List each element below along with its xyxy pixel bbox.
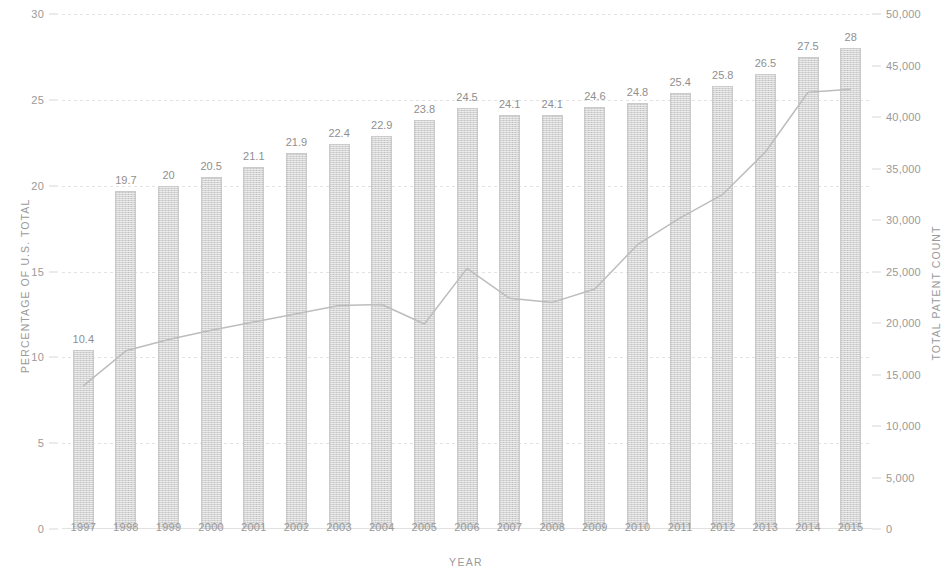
right-axis-tick-mark [872, 65, 881, 66]
bar-value-label: 24.5 [444, 91, 490, 103]
right-axis-tick: 30,000 [886, 214, 921, 226]
x-axis-tick-label: 2002 [273, 521, 319, 533]
x-axis-tick-label: 2012 [700, 521, 746, 533]
x-axis-tick-label: 2004 [359, 521, 405, 533]
right-axis: 05,00010,00015,00020,00025,00030,00035,0… [872, 0, 928, 574]
bar-value-label: 26.5 [742, 57, 788, 69]
x-axis-tick-label: 2000 [188, 521, 234, 533]
x-axis-tick-label: 2013 [742, 521, 788, 533]
bar-value-label: 24.1 [487, 98, 533, 110]
bar-value-label: 28 [828, 31, 874, 43]
right-axis-tick-mark [872, 323, 881, 324]
bar-value-label: 24.1 [529, 98, 575, 110]
x-axis-tick-label: 2008 [529, 521, 575, 533]
right-axis-tick: 50,000 [886, 8, 921, 20]
bar-value-label: 24.6 [572, 90, 618, 102]
x-axis-tick-label: 2003 [316, 521, 362, 533]
right-axis-tick-mark [872, 168, 881, 169]
right-axis-tick-mark [872, 477, 881, 478]
bar-value-label: 20 [146, 169, 192, 181]
right-axis-tick: 25,000 [886, 266, 921, 278]
left-axis-tick: 30 [31, 8, 44, 20]
x-axis-tick-label: 2015 [828, 521, 874, 533]
x-axis-tick-label: 1997 [60, 521, 106, 533]
right-axis-tick: 40,000 [886, 111, 921, 123]
right-axis-title: TOTAL PATENT COUNT [930, 213, 942, 373]
left-axis-tick-mark [49, 14, 58, 15]
x-axis-tick-label: 2001 [231, 521, 277, 533]
bar-value-label: 24.8 [615, 86, 661, 98]
right-axis-tick-mark [872, 220, 881, 221]
right-axis-tick-mark [872, 14, 881, 15]
left-axis-tick-mark [49, 99, 58, 100]
right-axis-tick-mark [872, 426, 881, 427]
patent-count-line [83, 89, 850, 386]
bar-value-label: 25.4 [657, 76, 703, 88]
x-axis-tick-label: 2009 [572, 521, 618, 533]
x-axis-title: YEAR [0, 556, 932, 568]
x-axis-tick-label: 2014 [785, 521, 831, 533]
left-axis-title: PERCENTAGE OF U.S. TOTAL [19, 213, 31, 373]
left-axis-tick-mark [49, 529, 58, 530]
x-axis-tick-label: 2005 [401, 521, 447, 533]
left-axis-tick: 15 [31, 266, 44, 278]
bar-value-label: 21.9 [273, 136, 319, 148]
bar-value-label: 19.7 [103, 174, 149, 186]
x-axis-tick-label: 2010 [615, 521, 661, 533]
left-axis-tick: 5 [38, 437, 44, 449]
right-axis-tick: 20,000 [886, 317, 921, 329]
right-axis-tick-mark [872, 117, 881, 118]
left-axis-tick-mark [49, 357, 58, 358]
left-axis-tick: 0 [38, 523, 44, 535]
bar-value-label: 25.8 [700, 69, 746, 81]
right-axis-tick: 15,000 [886, 369, 921, 381]
right-axis-tick: 5,000 [886, 472, 915, 484]
bar-value-label: 10.4 [60, 333, 106, 345]
right-axis-tick: 45,000 [886, 60, 921, 72]
left-axis-tick-mark [49, 443, 58, 444]
bar-value-label: 21.1 [231, 150, 277, 162]
left-axis-tick: 25 [31, 94, 44, 106]
x-axis-tick-label: 2007 [487, 521, 533, 533]
right-axis-tick: 35,000 [886, 163, 921, 175]
x-axis-tick-label: 2011 [657, 521, 703, 533]
bar-value-label: 23.8 [401, 103, 447, 115]
bar-value-label: 22.4 [316, 127, 362, 139]
x-axis-tick-label: 1998 [103, 521, 149, 533]
bar-value-label: 27.5 [785, 40, 831, 52]
left-axis-tick: 10 [31, 351, 44, 363]
bar-value-label: 22.9 [359, 119, 405, 131]
right-axis-tick: 0 [886, 523, 892, 535]
left-axis-tick-mark [49, 271, 58, 272]
bar-value-label: 20.5 [188, 160, 234, 172]
left-axis-tick-mark [49, 185, 58, 186]
x-axis-tick-label: 2006 [444, 521, 490, 533]
right-axis-tick: 10,000 [886, 420, 921, 432]
left-axis-tick: 20 [31, 180, 44, 192]
right-axis-tick-mark [872, 374, 881, 375]
x-axis-tick-label: 1999 [146, 521, 192, 533]
right-axis-tick-mark [872, 271, 881, 272]
